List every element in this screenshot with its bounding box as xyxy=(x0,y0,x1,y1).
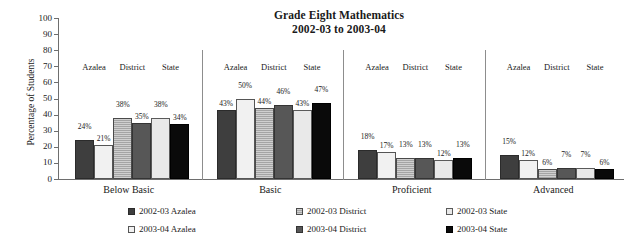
legend-swatch-icon xyxy=(128,208,135,215)
bar-value-label: 46% xyxy=(276,88,290,96)
bar-value-label: 12% xyxy=(437,150,451,158)
bar-value-label: 43% xyxy=(219,100,233,108)
y-tick-mark xyxy=(54,66,58,67)
bar-value-label: 12% xyxy=(521,150,535,158)
bar-value-label: 6% xyxy=(542,159,552,167)
bar-value-label: 17% xyxy=(380,142,394,150)
y-tick-label: 30 xyxy=(24,126,52,135)
category-label-below-basic: Below Basic xyxy=(103,184,154,195)
bar[interactable] xyxy=(377,152,396,179)
bar-value-label: 35% xyxy=(135,113,149,121)
legend-item[interactable]: 2002-03 Azalea xyxy=(128,206,196,216)
bar-value-label: 15% xyxy=(502,138,516,146)
bar[interactable] xyxy=(170,124,189,179)
bar-value-label: 38% xyxy=(116,101,130,109)
y-tick-label: 100 xyxy=(24,14,52,23)
bar[interactable] xyxy=(396,158,415,179)
legend-label: 2002-03 State xyxy=(457,206,507,216)
legend-swatch-icon xyxy=(296,226,303,233)
subgroup-label-state: State xyxy=(586,62,603,72)
y-tick-mark xyxy=(54,82,58,83)
y-tick-mark xyxy=(54,147,58,148)
bar[interactable] xyxy=(434,160,453,179)
bar[interactable] xyxy=(519,160,538,179)
legend-item[interactable]: 2003-04 State xyxy=(446,224,507,234)
chart-legend: 2002-03 Azalea2003-04 Azalea2002-03 Dist… xyxy=(0,204,628,250)
bar[interactable] xyxy=(217,110,236,179)
bar-value-label: 34% xyxy=(173,114,187,122)
y-tick-mark xyxy=(54,179,58,180)
legend-label: 2002-03 District xyxy=(307,206,366,216)
bar-value-label: 24% xyxy=(78,123,92,131)
legend-item[interactable]: 2003-04 District xyxy=(296,224,366,234)
bar[interactable] xyxy=(538,169,557,179)
bar-value-label: 18% xyxy=(361,133,375,141)
group-separator xyxy=(485,50,486,180)
bar[interactable] xyxy=(576,168,595,179)
bar-value-label: 6% xyxy=(599,159,609,167)
y-tick-label: 70 xyxy=(24,62,52,71)
plot-area: 1009080706050403020100 AzaleaDistrictSta… xyxy=(58,18,624,180)
bar[interactable] xyxy=(132,123,151,179)
y-tick-mark xyxy=(54,99,58,100)
bar[interactable] xyxy=(312,103,331,179)
bar[interactable] xyxy=(236,99,255,180)
chart-container: Grade Eight Mathematics 2002-03 to 2003-… xyxy=(0,0,628,252)
bar-value-label: 38% xyxy=(154,101,168,109)
y-tick-label: 50 xyxy=(24,94,52,103)
bar-value-label: 44% xyxy=(257,98,271,106)
subgroup-label-state: State xyxy=(162,62,179,72)
legend-swatch-icon xyxy=(446,226,453,233)
bar-value-label: 7% xyxy=(561,151,571,159)
subgroup-label-district: District xyxy=(261,62,287,72)
bar[interactable] xyxy=(595,169,614,179)
subgroup-label-azalea: Azalea xyxy=(82,62,106,72)
bar-value-label: 13% xyxy=(456,141,470,149)
legend-swatch-icon xyxy=(446,208,453,215)
bar[interactable] xyxy=(75,140,94,179)
y-tick-label: 10 xyxy=(24,158,52,167)
y-tick-mark xyxy=(54,115,58,116)
subgroup-label-azalea: Azalea xyxy=(224,62,248,72)
bar[interactable] xyxy=(293,110,312,179)
group-separator xyxy=(343,50,344,180)
y-tick-label: 20 xyxy=(24,142,52,151)
y-axis-line xyxy=(58,18,59,180)
legend-item[interactable]: 2002-03 State xyxy=(446,206,507,216)
bar-value-label: 7% xyxy=(580,151,590,159)
bar-value-label: 47% xyxy=(315,86,329,94)
bar[interactable] xyxy=(255,108,274,179)
bar[interactable] xyxy=(358,150,377,179)
subgroup-label-azalea: Azalea xyxy=(365,62,389,72)
bar[interactable] xyxy=(557,168,576,179)
legend-item[interactable]: 2002-03 District xyxy=(296,206,366,216)
y-tick-label: 0 xyxy=(24,175,52,184)
subgroup-label-state: State xyxy=(303,62,320,72)
bar[interactable] xyxy=(94,145,113,179)
y-tick-label: 90 xyxy=(24,30,52,39)
legend-item[interactable]: 2003-04 Azalea xyxy=(128,224,196,234)
bar[interactable] xyxy=(453,158,472,179)
legend-label: 2003-04 District xyxy=(307,224,366,234)
subgroup-label-district: District xyxy=(544,62,570,72)
legend-swatch-icon xyxy=(296,208,303,215)
y-tick-label: 80 xyxy=(24,46,52,55)
category-label-proficient: Proficient xyxy=(392,184,431,195)
bar[interactable] xyxy=(274,105,293,179)
y-tick-label: 40 xyxy=(24,110,52,119)
y-tick-mark xyxy=(54,163,58,164)
subgroup-label-azalea: Azalea xyxy=(507,62,531,72)
category-label-basic: Basic xyxy=(259,184,281,195)
subgroup-label-district: District xyxy=(120,62,146,72)
legend-swatch-icon xyxy=(128,226,135,233)
y-tick-mark xyxy=(54,50,58,51)
bar[interactable] xyxy=(151,118,170,179)
subgroup-label-state: State xyxy=(445,62,462,72)
bar[interactable] xyxy=(415,158,434,179)
bar[interactable] xyxy=(113,118,132,179)
legend-label: 2003-04 State xyxy=(457,224,507,234)
category-label-advanced: Advanced xyxy=(533,184,574,195)
bar-value-label: 21% xyxy=(97,135,111,143)
group-separator xyxy=(202,50,203,180)
bar[interactable] xyxy=(500,155,519,179)
